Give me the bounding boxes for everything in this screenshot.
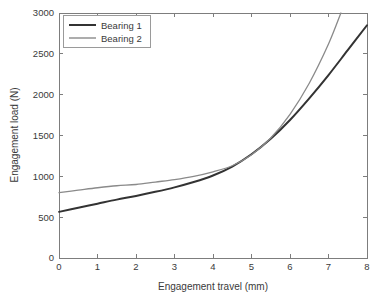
x-tick-label: 2 bbox=[133, 261, 138, 272]
x-tick-label: 6 bbox=[287, 261, 292, 272]
x-tick-label: 1 bbox=[95, 261, 100, 272]
x-tick-label: 4 bbox=[210, 261, 215, 272]
y-tick-label: 500 bbox=[38, 212, 54, 223]
y-axis-title: Engagement load (N) bbox=[9, 87, 20, 182]
x-tick-label: 7 bbox=[326, 261, 331, 272]
y-tick-label: 1000 bbox=[33, 171, 54, 182]
legend-label-bearing-2: Bearing 2 bbox=[101, 33, 142, 44]
y-tick-label: 3000 bbox=[33, 7, 54, 18]
x-axis-title: Engagement travel (mm) bbox=[158, 281, 268, 292]
y-tick-label: 0 bbox=[49, 252, 54, 263]
y-tick-label: 2000 bbox=[33, 89, 54, 100]
y-tick-label: 1500 bbox=[33, 130, 54, 141]
x-tick-label: 0 bbox=[56, 261, 61, 272]
legend: Bearing 1 Bearing 2 bbox=[64, 16, 151, 48]
x-tick-label: 3 bbox=[172, 261, 177, 272]
y-tick-label: 2500 bbox=[33, 48, 54, 59]
figure-background bbox=[0, 0, 385, 300]
legend-label-bearing-1: Bearing 1 bbox=[101, 20, 142, 31]
x-tick-label: 5 bbox=[249, 261, 254, 272]
x-tick-label: 8 bbox=[364, 261, 369, 272]
chart-figure: 012345678 050010001500200025003000 Engag… bbox=[0, 0, 385, 300]
